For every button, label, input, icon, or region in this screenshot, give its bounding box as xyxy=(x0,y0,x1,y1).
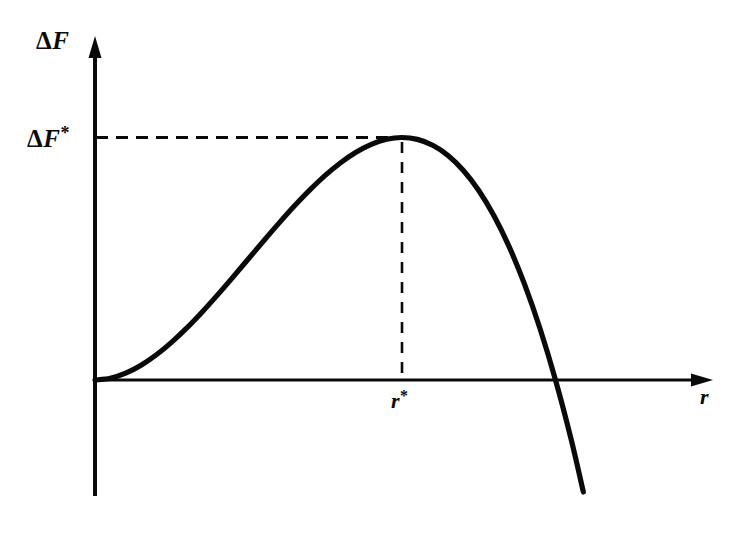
r-star-label-symbol: r xyxy=(391,388,400,413)
y-axis-title-delta: Δ xyxy=(36,27,52,54)
y-axis-arrowhead-icon xyxy=(89,36,102,58)
r-star-label-asterisk: * xyxy=(400,387,408,404)
r-star-label: r* xyxy=(391,388,408,412)
y-axis xyxy=(89,36,102,496)
delta-f-star-label-symbol: F xyxy=(43,125,60,152)
free-energy-curve-plot xyxy=(0,0,748,534)
delta-f-star-label-delta: Δ xyxy=(27,125,43,152)
x-axis-title-symbol: r xyxy=(700,384,709,409)
y-axis-title: ΔF xyxy=(36,28,69,53)
nucleation-free-energy-figure: ΔF ΔF* r* r xyxy=(0,0,748,534)
free-energy-curve-path xyxy=(95,137,583,492)
y-axis-title-symbol: F xyxy=(52,27,69,54)
x-axis xyxy=(95,374,713,387)
x-axis-title: r xyxy=(700,386,709,408)
delta-f-star-label: ΔF* xyxy=(27,124,69,151)
delta-f-star-label-asterisk: * xyxy=(60,123,69,143)
